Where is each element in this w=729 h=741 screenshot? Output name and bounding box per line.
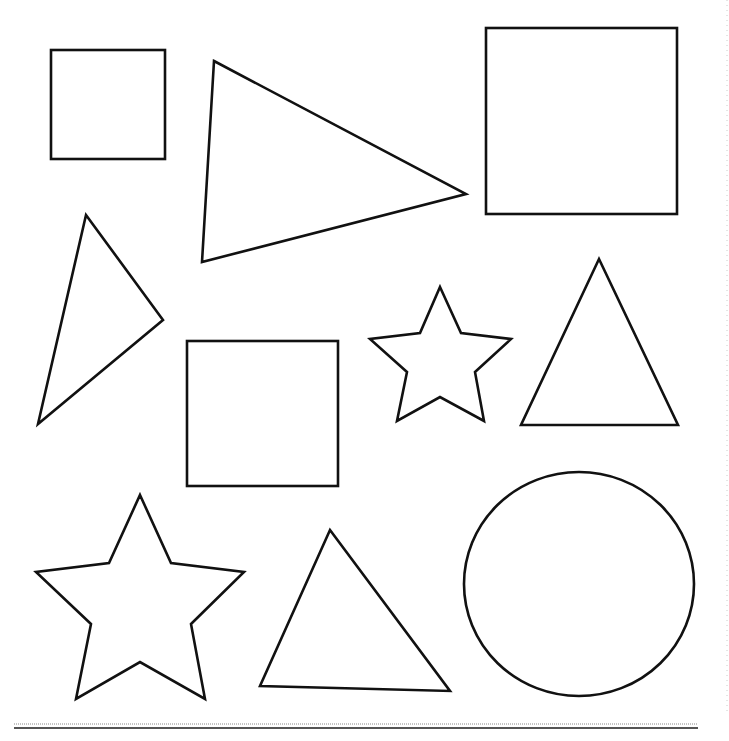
shapes-worksheet [0, 0, 729, 741]
page-background [0, 0, 729, 741]
